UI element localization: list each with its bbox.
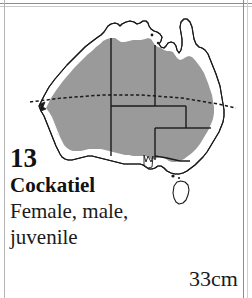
species-name: Cockatiel [10, 173, 210, 198]
inland-locality-dot [57, 133, 60, 136]
page-frame-right-line-secondary [247, 0, 248, 298]
page-frame-top-line [0, 3, 252, 4]
page-frame-left-line [4, 0, 5, 298]
page-frame-top-line-secondary [0, 6, 252, 7]
species-caption-block: 13 Cockatiel Female, male, juvenile [10, 144, 210, 250]
plate-number: 13 [10, 144, 210, 172]
field-guide-page: 13 Cockatiel Female, male, juvenile 33cm [0, 0, 252, 298]
plumage-line-1: Female, male, [10, 198, 210, 224]
plumage-line-2: juvenile [10, 224, 210, 250]
size-label: 33cm [189, 266, 238, 292]
gulf-island-2 [157, 42, 159, 44]
gulf-island [151, 34, 154, 37]
